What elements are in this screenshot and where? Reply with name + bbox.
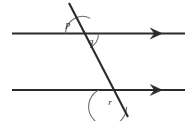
geometry-diagram: p q r [0, 0, 194, 121]
angle-label-r: r [108, 97, 112, 107]
angle-label-q: q [89, 36, 94, 46]
diagram-background [0, 0, 194, 121]
angle-label-p: p [65, 19, 71, 29]
geometry-canvas: p q r [0, 0, 194, 121]
